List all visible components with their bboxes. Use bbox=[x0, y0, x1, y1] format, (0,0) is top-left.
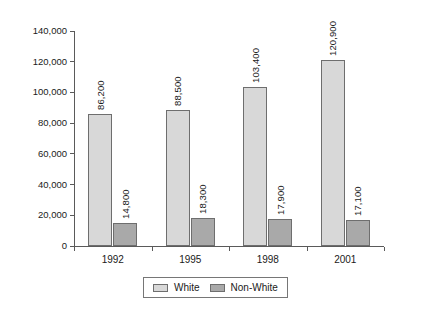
x-axis-label-1998: 1998 bbox=[229, 253, 307, 266]
y-axis-tick-20000: 20,000 bbox=[0, 208, 74, 222]
bar-2001-white[interactable] bbox=[321, 60, 345, 246]
plot-area: 86,20014,80088,50018,300103,40017,900120… bbox=[74, 31, 384, 246]
x-axis-tick-mark bbox=[74, 247, 75, 251]
bar-value-label: 103,400 bbox=[250, 48, 261, 83]
bar-chart: 020,00040,00060,00080,000100,000120,0001… bbox=[0, 0, 430, 311]
bar-1992-white[interactable] bbox=[88, 114, 112, 246]
y-axis-tick-0: 0 bbox=[0, 239, 74, 253]
bar-1995-white[interactable] bbox=[166, 110, 190, 246]
x-axis-tick-mark bbox=[384, 247, 385, 251]
bar-value-label: 17,100 bbox=[352, 186, 363, 216]
bar-1992-non-white[interactable] bbox=[113, 223, 137, 246]
y-axis-tick-label: 100,000 bbox=[33, 86, 74, 97]
legend-label-non-white: Non-White bbox=[231, 282, 278, 294]
y-axis-tick-label: 140,000 bbox=[33, 25, 74, 36]
legend-item-non-white[interactable]: Non-White bbox=[210, 282, 278, 294]
bar-group-1995: 88,50018,300 bbox=[152, 31, 230, 246]
legend-swatch-non-white-icon bbox=[210, 284, 225, 292]
x-axis-label-1992: 1992 bbox=[74, 253, 152, 266]
x-axis-tick-mark bbox=[307, 247, 308, 251]
y-axis-tick-40000: 40,000 bbox=[0, 178, 74, 192]
y-axis-tick-label: 20,000 bbox=[38, 209, 74, 220]
legend-item-white[interactable]: White bbox=[153, 282, 200, 294]
bar-1998-non-white[interactable] bbox=[268, 219, 292, 246]
y-axis-tick-label: 80,000 bbox=[38, 117, 74, 128]
x-axis-tick-mark bbox=[229, 247, 230, 251]
chart-legend: White Non-White bbox=[143, 277, 288, 298]
bar-value-label: 86,200 bbox=[95, 80, 106, 110]
bar-value-label: 120,900 bbox=[327, 21, 338, 56]
bar-group-1998: 103,40017,900 bbox=[229, 31, 307, 246]
bar-value-label: 17,900 bbox=[275, 185, 286, 215]
legend-swatch-white-icon bbox=[153, 284, 168, 292]
bar-value-label: 88,500 bbox=[172, 76, 183, 106]
x-axis-label-2001: 2001 bbox=[307, 253, 385, 266]
bar-value-label: 18,300 bbox=[197, 184, 208, 214]
bar-2001-non-white[interactable] bbox=[346, 220, 370, 246]
y-axis-tick-140000: 140,000 bbox=[0, 24, 74, 38]
legend-label-white: White bbox=[174, 282, 200, 294]
y-axis-tick-120000: 120,000 bbox=[0, 55, 74, 69]
x-axis-label-1995: 1995 bbox=[152, 253, 230, 266]
y-axis-tick-80000: 80,000 bbox=[0, 116, 74, 130]
y-axis-tick-label: 120,000 bbox=[33, 56, 74, 67]
y-axis-tick-label: 60,000 bbox=[38, 148, 74, 159]
bar-value-label: 14,800 bbox=[120, 190, 131, 220]
y-axis-tick-60000: 60,000 bbox=[0, 147, 74, 161]
bar-group-1992: 86,20014,800 bbox=[74, 31, 152, 246]
y-axis-tick-100000: 100,000 bbox=[0, 85, 74, 99]
x-axis-tick-mark bbox=[152, 247, 153, 251]
y-axis-tick-label: 40,000 bbox=[38, 179, 74, 190]
bar-1995-non-white[interactable] bbox=[191, 218, 215, 246]
bar-group-2001: 120,90017,100 bbox=[307, 31, 385, 246]
y-axis-tick-label: 0 bbox=[62, 240, 74, 251]
bar-1998-white[interactable] bbox=[243, 87, 267, 246]
